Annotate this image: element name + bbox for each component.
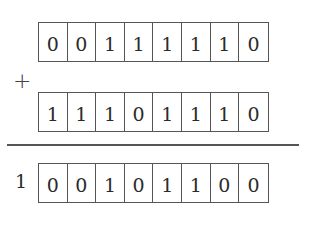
bit-cell: 0 — [68, 23, 97, 61]
bit-cell: 1 — [182, 23, 211, 61]
bit-cell: 1 — [182, 164, 211, 202]
bit-cell: 1 — [153, 164, 182, 202]
bit-cell: 1 — [96, 23, 125, 61]
bit-cell: 1 — [182, 93, 211, 131]
bit-cell: 0 — [68, 164, 97, 202]
bit-cell: 1 — [39, 93, 68, 131]
bit-cell: 1 — [153, 23, 182, 61]
bit-cell: 0 — [125, 164, 154, 202]
bit-cell: 0 — [239, 23, 268, 61]
addend-1-register: 0 0 1 1 1 1 1 0 — [38, 22, 269, 62]
bit-cell: 1 — [211, 23, 240, 61]
overflow-carry-bit: 1 — [15, 170, 27, 192]
plus-operator: + — [13, 68, 31, 93]
sum-divider-line — [7, 144, 299, 146]
bit-cell: 0 — [39, 164, 68, 202]
bit-cell: 0 — [39, 23, 68, 61]
bit-cell: 1 — [96, 93, 125, 131]
bit-cell: 0 — [211, 164, 240, 202]
bit-cell: 0 — [239, 164, 268, 202]
result-register: 0 0 1 0 1 1 0 0 — [38, 163, 269, 203]
bit-cell: 1 — [68, 93, 97, 131]
bit-cell: 1 — [125, 23, 154, 61]
bit-cell: 1 — [153, 93, 182, 131]
bit-cell: 0 — [125, 93, 154, 131]
bit-cell: 1 — [96, 164, 125, 202]
addend-2-register: 1 1 1 0 1 1 1 0 — [38, 92, 269, 132]
bit-cell: 0 — [239, 93, 268, 131]
bit-cell: 1 — [211, 93, 240, 131]
